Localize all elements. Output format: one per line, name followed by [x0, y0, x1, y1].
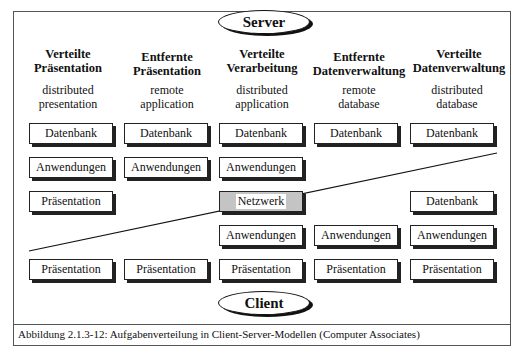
box-praesentation: Präsentation: [124, 259, 208, 280]
box-praesentation: Präsentation: [29, 259, 113, 280]
box-datenbank: Datenbank: [314, 123, 398, 144]
box-praesentation: Präsentation: [219, 259, 303, 280]
box-datenbank: Datenbank: [29, 123, 113, 144]
box-datenbank: Datenbank: [410, 191, 494, 212]
box-datenbank: Datenbank: [124, 123, 208, 144]
box-praesentation: Präsentation: [29, 191, 113, 212]
box-praesentation: Präsentation: [314, 259, 398, 280]
box-anwendungen: Anwendungen: [124, 157, 208, 178]
box-anwendungen: Anwendungen: [29, 157, 113, 178]
box-praesentation: Präsentation: [410, 259, 494, 280]
box-anwendungen: Anwendungen: [410, 225, 494, 246]
box-datenbank: Datenbank: [219, 123, 303, 144]
box-anwendungen: Anwendungen: [219, 157, 303, 178]
box-datenbank: Datenbank: [410, 123, 494, 144]
box-anwendungen: Anwendungen: [219, 225, 303, 246]
box-netzwerk: Netzwerk: [219, 191, 303, 212]
box-anwendungen: Anwendungen: [314, 225, 398, 246]
